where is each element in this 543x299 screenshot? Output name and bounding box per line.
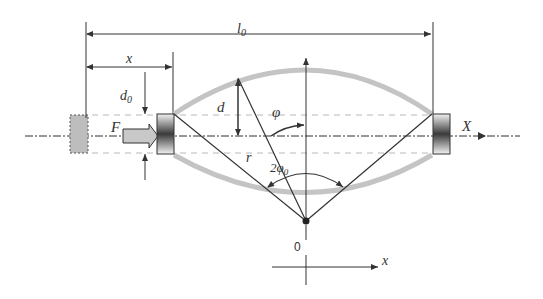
x-dimension-label: x xyxy=(125,51,133,66)
d-label: d xyxy=(217,99,225,115)
ghost-block xyxy=(70,115,88,153)
l0-label: l0 xyxy=(237,21,246,38)
two-phi0-label: 2φ0 xyxy=(270,160,289,177)
d0-label: d0 xyxy=(120,88,132,105)
origin-label: 0 xyxy=(294,240,301,254)
origin-point xyxy=(303,218,310,225)
diagram-canvas: l0 x d0 F X d φ r 2φ0 0 x xyxy=(0,0,543,299)
x-axis-label: x xyxy=(381,253,389,268)
center-axis-arrow-icon xyxy=(478,132,486,140)
right-block xyxy=(433,114,450,154)
force-arrow-icon xyxy=(123,124,158,148)
force-label: F xyxy=(110,119,121,135)
phi-label: φ xyxy=(272,104,280,120)
radius-lines xyxy=(174,78,432,221)
upper-arc xyxy=(174,70,432,114)
X-axis-label: X xyxy=(461,118,472,134)
r-label: r xyxy=(246,150,252,165)
phi-angle-arc xyxy=(271,125,304,136)
left-block xyxy=(157,114,174,154)
